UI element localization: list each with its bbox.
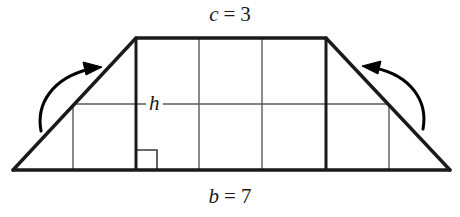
height-label: h	[146, 93, 163, 114]
top-side-value: 3	[240, 2, 251, 26]
grid-lines	[73, 38, 389, 170]
right-fold-arrow	[362, 61, 424, 129]
base-value: 7	[241, 184, 252, 208]
left-fold-arrow-head	[83, 62, 102, 75]
top-side-equals: =	[223, 2, 235, 26]
top-side-label: c=3	[0, 4, 460, 25]
base-label: b=7	[0, 186, 460, 207]
right-angle-marker	[137, 150, 157, 170]
right-fold-arrow-head	[362, 61, 381, 74]
left-fold-arrow	[40, 62, 102, 131]
top-side-variable: c	[209, 2, 218, 26]
base-equals: =	[224, 184, 236, 208]
left-fold-arrow-curve	[40, 69, 90, 131]
geometry-figure: c=3 b=7 h	[0, 0, 460, 217]
base-variable: b	[209, 184, 220, 208]
